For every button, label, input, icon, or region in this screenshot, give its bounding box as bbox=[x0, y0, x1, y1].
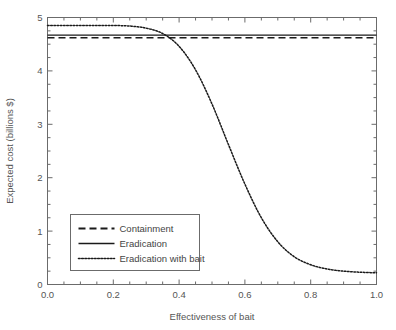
x-tick-label: 0.0 bbox=[41, 289, 54, 300]
x-tick-label: 0.8 bbox=[304, 289, 317, 300]
y-tick-label: 5 bbox=[37, 12, 42, 23]
x-tick-label: 0.4 bbox=[172, 289, 185, 300]
legend-label-eradication-with-bait: Eradication with bait bbox=[120, 253, 205, 264]
x-tick-label: 0.2 bbox=[107, 289, 120, 300]
chart-figure: 0.00.20.40.60.81.0012345Effectiveness of… bbox=[0, 0, 396, 330]
legend-label-eradication: Eradication bbox=[120, 238, 168, 249]
x-tick-label: 0.6 bbox=[238, 289, 251, 300]
y-tick-label: 0 bbox=[37, 279, 42, 290]
y-axis-title: Expected cost (billions $) bbox=[4, 98, 15, 204]
y-tick-label: 4 bbox=[37, 65, 42, 76]
legend-label-containment: Containment bbox=[120, 223, 174, 234]
y-tick-label: 1 bbox=[37, 226, 42, 237]
y-tick-label: 2 bbox=[37, 172, 42, 183]
x-tick-label: 1.0 bbox=[370, 289, 383, 300]
x-axis-title: Effectiveness of bait bbox=[170, 311, 255, 322]
y-tick-label: 3 bbox=[37, 119, 42, 130]
line-chart: 0.00.20.40.60.81.0012345Effectiveness of… bbox=[0, 0, 396, 330]
